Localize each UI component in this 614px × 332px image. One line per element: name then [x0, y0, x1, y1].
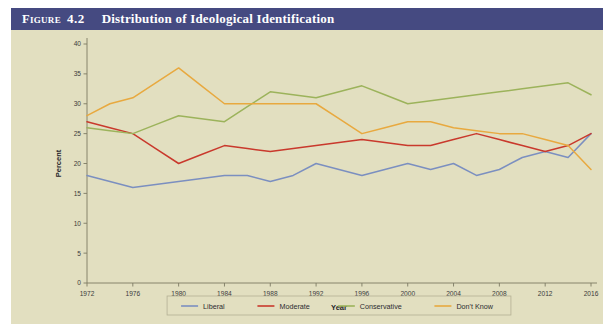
- figure-title-text: Distribution of Ideological Identificati…: [102, 11, 335, 27]
- x-tick-label: 1976: [125, 290, 140, 297]
- y-tick-label: 40: [74, 40, 82, 47]
- series-line-don-t-know: [87, 68, 591, 170]
- y-tick-label: 25: [74, 130, 82, 137]
- x-tick-label: 1980: [171, 290, 186, 297]
- y-tick-label: 30: [74, 100, 82, 107]
- y-tick-label: 10: [74, 220, 82, 227]
- x-tick-label: 1984: [217, 290, 232, 297]
- y-tick-label: 15: [74, 190, 82, 197]
- x-tick-label: 2012: [538, 290, 553, 297]
- line-chart: 0510152025303540 19721976198019841988199…: [11, 30, 603, 324]
- x-axis: 1972197619801984198819921996200020042008…: [80, 283, 599, 297]
- y-tick-label: 20: [74, 160, 82, 167]
- x-tick-label: 2016: [584, 290, 599, 297]
- legend-label: Liberal: [203, 302, 225, 311]
- legend-label: Conservative: [360, 302, 402, 311]
- series-line-liberal: [87, 134, 591, 188]
- figure-title-bar: Figure 4.2 Distribution of Ideological I…: [11, 8, 603, 30]
- series-line-conservative: [87, 83, 591, 134]
- x-tick-label: 1996: [355, 290, 370, 297]
- x-tick-label: 2000: [400, 290, 415, 297]
- chart-legend: LiberalModerateConservativeDon't Know: [167, 296, 511, 315]
- figure-label: Figure: [22, 12, 61, 27]
- x-tick-label: 1992: [309, 290, 324, 297]
- y-tick-label: 0: [77, 279, 81, 286]
- y-axis: 0510152025303540: [74, 38, 87, 286]
- x-tick-label: 1972: [80, 290, 95, 297]
- y-axis-title: Percent: [54, 149, 63, 177]
- series-line-moderate: [87, 122, 591, 164]
- legend-label: Don't Know: [456, 302, 493, 311]
- figure-number: 4.2: [67, 11, 85, 27]
- x-tick-label: 2008: [492, 290, 507, 297]
- y-tick-label: 35: [74, 70, 82, 77]
- legend-label: Moderate: [279, 302, 309, 311]
- x-tick-label: 1988: [263, 290, 278, 297]
- figure-container: Figure 4.2 Distribution of Ideological I…: [0, 0, 614, 332]
- series-lines: [87, 68, 591, 187]
- y-tick-label: 5: [77, 250, 81, 257]
- x-axis-title: Year: [331, 303, 347, 312]
- chart-panel: 0510152025303540 19721976198019841988199…: [11, 30, 603, 324]
- x-tick-label: 2004: [446, 290, 461, 297]
- axis-titles: YearPercent: [54, 149, 347, 312]
